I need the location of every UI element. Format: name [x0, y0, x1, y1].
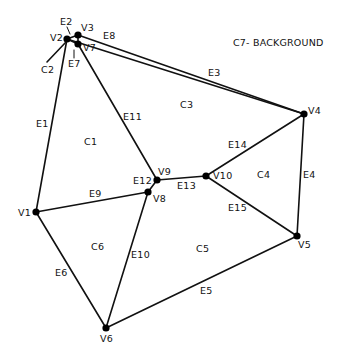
vertex-v1	[32, 208, 39, 215]
edge-label-e13: E13	[177, 180, 196, 191]
vertex-v9	[153, 176, 160, 183]
vertex-label-v8: V8	[153, 193, 166, 204]
cell-label-c6: C6	[91, 241, 104, 252]
vertex-v4	[300, 110, 307, 117]
vertex-v6	[102, 324, 109, 331]
edge-label-e9: E9	[89, 188, 102, 199]
edge-label-e1: E1	[36, 118, 49, 129]
edge-e15	[206, 176, 297, 236]
cell-label-c5: C5	[196, 243, 209, 254]
background-cell-title: C7- BACKGROUND	[233, 37, 323, 48]
labels-layer: V1V2V3V4V5V6V7V8V9V10E1E2E3E4E5E6E7E8E9E…	[18, 16, 321, 344]
edge-e10	[106, 192, 148, 328]
edge-label-e7: E7	[68, 58, 81, 69]
vertex-label-v9: V9	[158, 166, 171, 177]
cell-label-c2: C2	[41, 64, 54, 75]
vertices-layer	[32, 31, 307, 331]
edge-label-e4: E4	[303, 169, 316, 180]
edge-label-e10: E10	[131, 249, 150, 260]
e2-pointer-line	[67, 27, 70, 34]
cell-label-c4: C4	[257, 169, 270, 180]
vertex-v7	[74, 40, 81, 47]
edge-label-e15: E15	[228, 202, 247, 213]
edge-label-e14: E14	[228, 139, 247, 150]
cell-label-c1: C1	[84, 136, 97, 147]
vertex-v8	[144, 188, 151, 195]
vertex-v2	[63, 35, 70, 42]
edge-label-e8: E8	[103, 30, 116, 41]
edge-label-e12: E12	[133, 175, 152, 186]
vertex-label-v10: V10	[213, 170, 233, 181]
vertex-label-v2: V2	[50, 32, 63, 43]
vertex-label-v5: V5	[298, 239, 311, 250]
vertex-v10	[202, 172, 209, 179]
vertex-label-v3: V3	[81, 22, 94, 33]
edge-label-e6: E6	[55, 267, 68, 278]
cell-label-c3: C3	[180, 99, 193, 110]
vertex-label-v7: V7	[83, 42, 96, 53]
vertex-label-v4: V4	[308, 105, 321, 116]
edge-label-e2: E2	[60, 16, 73, 27]
planar-graph-diagram: V1V2V3V4V5V6V7V8V9V10E1E2E3E4E5E6E7E8E9E…	[0, 0, 337, 359]
vertex-label-v6: V6	[100, 333, 113, 344]
vertex-label-v1: V1	[18, 207, 31, 218]
edge-label-e11: E11	[123, 111, 142, 122]
edge-label-e3: E3	[208, 67, 221, 78]
edge-label-e5: E5	[200, 285, 213, 296]
edges-layer	[36, 35, 304, 328]
edge-e14	[206, 114, 304, 176]
edge-e6	[36, 212, 106, 328]
